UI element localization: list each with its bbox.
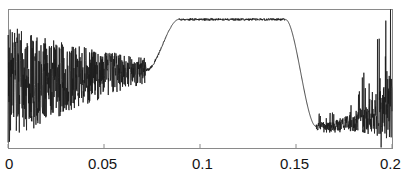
x-axis-ticks	[8, 144, 392, 148]
x-tick-label: 0.15	[280, 156, 309, 172]
chart-figure: 00.050.10.150.2	[0, 0, 407, 182]
x-tick-label: 0	[5, 156, 13, 172]
x-tick-label: 0.2	[380, 156, 401, 172]
x-tick-label: 0.1	[192, 156, 213, 172]
signal-trace	[8, 10, 392, 148]
x-tick-label: 0.05	[88, 156, 117, 172]
